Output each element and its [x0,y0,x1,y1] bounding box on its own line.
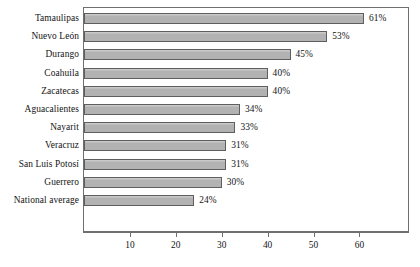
category-label: Nayarit [0,122,79,133]
bar [84,140,226,151]
bar [84,195,194,206]
category-label: Veracruz [0,140,79,151]
bar [84,31,327,42]
category-label: San Luis Potosí [0,159,79,170]
bar-value-label: 33% [240,122,258,133]
x-axis-tick-label: 10 [125,240,134,251]
bar [84,13,364,24]
category-label: National average [0,195,79,206]
bar-value-label: 61% [369,13,387,24]
x-axis-tick-label: 60 [355,240,364,251]
bar-value-label: 40% [273,68,291,79]
x-axis-tick-label: 50 [309,240,318,251]
x-axis-tick [222,232,223,237]
bar-value-label: 34% [245,104,263,115]
bar [84,122,235,133]
x-axis-tick-label: 40 [263,240,272,251]
bar [84,159,226,170]
bar-value-label: 24% [199,195,217,206]
bar [84,104,240,115]
bar [84,177,222,188]
category-label: Coahuila [0,68,79,79]
x-axis-tick [130,232,131,237]
category-axis-labels: TamaulipasNuevo LeónDurangoCoahuilaZacat… [0,7,79,232]
x-axis-tick [314,232,315,237]
bars-layer: 61%53%45%40%40%34%33%31%31%30%24% [84,8,408,231]
bar [84,49,291,60]
x-axis-tick [268,232,269,237]
bar-value-label: 45% [296,49,314,60]
bar [84,86,268,97]
x-axis-tick-label: 20 [171,240,180,251]
x-axis-tick [359,232,360,237]
bar [84,68,268,79]
x-axis-tick-label: 30 [217,240,226,251]
category-label: Nuevo León [0,31,79,42]
bar-value-label: 53% [332,31,350,42]
bar-value-label: 31% [231,140,249,151]
category-label: Tamaulipas [0,13,79,24]
category-label: Zacatecas [0,86,79,97]
category-label: Guerrero [0,177,79,188]
bar-value-label: 31% [231,159,249,170]
bar-value-label: 30% [227,177,245,188]
horizontal-bar-chart: TamaulipasNuevo LeónDurangoCoahuilaZacat… [0,0,420,267]
x-axis-tick [176,232,177,237]
bar-value-label: 40% [273,86,291,97]
category-label: Aguacalientes [0,104,79,115]
category-label: Durango [0,49,79,60]
